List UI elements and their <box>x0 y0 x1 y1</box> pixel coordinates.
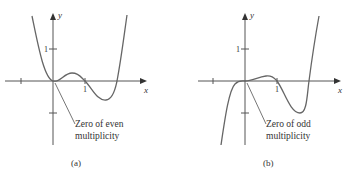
x-tick-label-b: 1 <box>275 85 279 94</box>
y-axis-arrow-icon <box>50 13 56 20</box>
annotation-a-line1: Zero of even <box>75 119 124 129</box>
figure: y x 1 1 Zero of even multiplicity (a) y … <box>0 0 351 176</box>
annotation-b-line1: Zero of odd <box>266 119 311 129</box>
y-axis-label-b: y <box>249 10 254 20</box>
annotation-a-line2: multiplicity <box>75 131 120 141</box>
caption-a: (a) <box>71 158 81 168</box>
x-axis-label-b: x <box>337 85 342 95</box>
annotation-leader-b <box>247 83 266 124</box>
x-axis-arrow-icon <box>140 78 147 84</box>
y-tick-label-a: 1 <box>44 45 48 54</box>
curve-a <box>32 15 127 100</box>
x-axis-label-a: x <box>143 85 148 95</box>
caption-b: (b) <box>263 158 274 168</box>
panel-a: y x 1 1 Zero of even multiplicity (a) <box>5 10 148 168</box>
annotation-b-line2: multiplicity <box>266 131 311 141</box>
x-axis-arrow-icon <box>334 78 341 84</box>
y-tick-label-b: 1 <box>236 45 240 54</box>
annotation-leader-a <box>55 83 75 124</box>
panel-b: y x 1 1 Zero of odd multiplicity (b) <box>198 10 342 168</box>
y-axis-arrow-icon <box>242 13 248 20</box>
y-axis-label-a: y <box>57 10 62 20</box>
x-tick-label-a: 1 <box>83 85 87 94</box>
